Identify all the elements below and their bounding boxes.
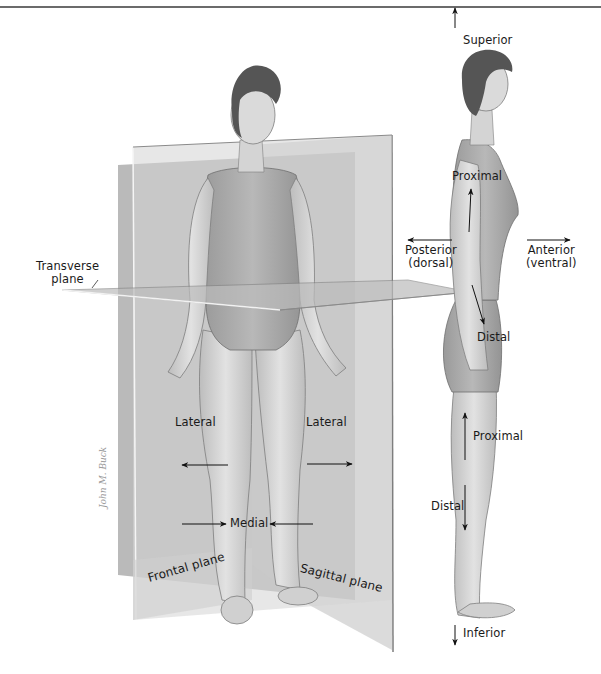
distal-arm-label: Distal: [477, 331, 510, 344]
distal-leg-label: Distal: [431, 500, 464, 513]
dorsal-text: (dorsal): [405, 257, 457, 270]
posterior-label: Posterior (dorsal): [405, 244, 457, 270]
medial-label: Medial: [230, 517, 268, 530]
anterior-label: Anterior (ventral): [526, 244, 577, 270]
proximal-arm-label: Proximal: [452, 170, 502, 183]
ventral-text: (ventral): [526, 257, 577, 270]
artist-signature: John M. Buck: [98, 447, 108, 508]
proximal-leg-label: Proximal: [473, 430, 523, 443]
transverse-label-line2: plane: [36, 273, 99, 286]
superior-label: Superior: [463, 34, 512, 47]
lateral-left-label: Lateral: [175, 416, 216, 429]
inferior-label: Inferior: [463, 627, 505, 640]
transverse-plane-label: Transverse plane: [36, 260, 99, 286]
lateral-right-label: Lateral: [306, 416, 347, 429]
